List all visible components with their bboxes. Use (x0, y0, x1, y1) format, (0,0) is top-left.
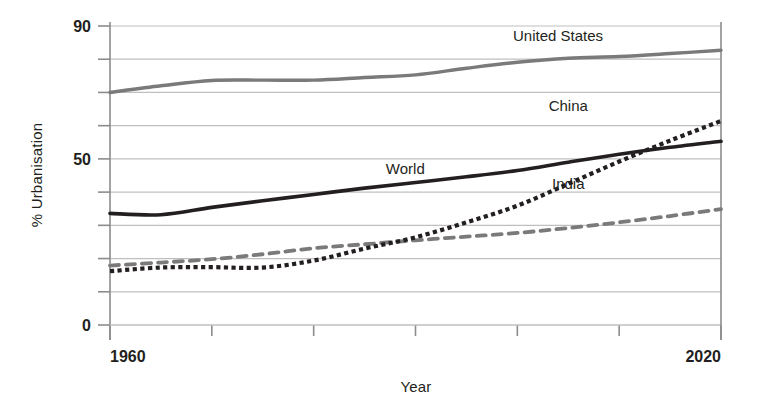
x-tick-label-1960: 1960 (110, 348, 146, 365)
chart-canvas: 90500 19602020 United StatesWorldChinaIn… (0, 0, 765, 410)
y-tick-label-90: 90 (73, 18, 91, 35)
x-tick-label-2020: 2020 (685, 348, 721, 365)
urbanisation-line-chart: 90500 19602020 United StatesWorldChinaIn… (0, 0, 765, 410)
y-tick-label-50: 50 (73, 151, 91, 168)
series-label-india: India (552, 175, 585, 192)
y-axis-title: % Urbanisation (28, 123, 45, 228)
y-tick-label-0: 0 (82, 317, 91, 334)
series-label-china: China (549, 97, 589, 114)
x-axis-title: Year (400, 378, 431, 395)
series-label-united-states: United States (513, 27, 603, 44)
series-label-world: World (386, 160, 425, 177)
